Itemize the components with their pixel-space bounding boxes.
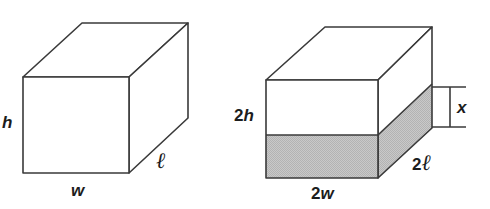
label-2w-variable: w bbox=[320, 184, 333, 203]
label-2h: 2h bbox=[234, 107, 254, 124]
small-prism-front-face bbox=[23, 77, 129, 173]
label-h: h bbox=[2, 114, 12, 131]
large-prism-front-face-upper bbox=[266, 80, 378, 135]
large-prism-front-face-shaded-band bbox=[266, 135, 378, 178]
label-2w: 2w bbox=[311, 185, 334, 202]
figure-canvas bbox=[0, 0, 490, 209]
label-x: x bbox=[457, 99, 466, 116]
label-2h-variable: h bbox=[243, 106, 253, 125]
label-2-ell: 2ℓ bbox=[412, 152, 431, 174]
large-prism-group bbox=[266, 27, 432, 178]
geometry-figure: h w ℓ 2h 2w 2ℓ x bbox=[0, 0, 490, 209]
label-ell: ℓ bbox=[156, 150, 165, 172]
label-2-ell-variable: ℓ bbox=[421, 150, 430, 175]
label-w: w bbox=[71, 182, 84, 199]
